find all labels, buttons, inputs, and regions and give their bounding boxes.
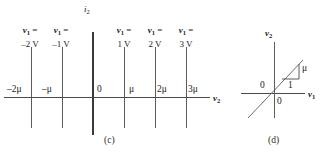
curve-label-1-value: –1 V — [52, 39, 70, 49]
panel-c-xtick-0: –2μ — [7, 84, 22, 94]
panel-c-xtick-1: –μ — [42, 84, 52, 94]
panel-c-horizontal-axis — [4, 97, 210, 98]
panel-d-x-axis-subscript: 1 — [312, 93, 315, 100]
panel-c-x-axis-subscript: 2 — [217, 97, 220, 104]
panel-c-caption: (c) — [104, 135, 115, 145]
panel-d-y-axis-label: v2 — [265, 28, 272, 41]
characteristic-line-v1-plus2 — [155, 47, 156, 128]
characteristic-line-v1-plus3 — [186, 47, 187, 128]
panel-d-horizontal-axis — [241, 93, 305, 94]
panel-c-vertical-axis — [92, 32, 94, 135]
panel-c-y-axis-label: i2 — [84, 4, 90, 17]
panel-d-vertical-axis — [274, 42, 275, 118]
panel-d-x-axis-label: v1 — [308, 89, 315, 102]
panel-d-y-axis-subscript: 2 — [269, 32, 272, 39]
panel-d-caption: (d) — [268, 135, 279, 145]
curve-label-1: v1 = –1 V — [41, 25, 81, 49]
transfer-characteristic-line — [248, 60, 303, 118]
panel-d-origin-label-upper: 0 — [260, 80, 265, 90]
characteristic-line-v1-minus1 — [62, 47, 63, 128]
panel-d-origin-label-lower: 0 — [277, 96, 282, 106]
curve-label-4: v1 = 3 V — [166, 25, 206, 49]
curve-label-4-eq: = — [186, 25, 193, 35]
panel-c-xtick-2: 0 — [97, 84, 102, 94]
curve-label-2-eq: = — [124, 25, 131, 35]
characteristic-line-v1-minus2 — [31, 47, 32, 128]
curve-label-1-eq: = — [61, 25, 68, 35]
curve-label-0-value: –2 V — [21, 39, 39, 49]
curve-label-0-eq: = — [30, 25, 37, 35]
panel-d-slope-rise-label: μ — [302, 63, 307, 73]
curve-label-3-eq: = — [155, 25, 162, 35]
panel-c-xtick-3: μ — [129, 84, 134, 94]
panel-c-xtick-4: 2μ — [157, 84, 167, 94]
panel-d-overlay — [0, 0, 328, 152]
panel-c-x-axis-label: v2 — [213, 93, 220, 106]
panel-c-xtick-5: 3μ — [188, 84, 198, 94]
panel-d-slope-run-label: 1 — [288, 80, 293, 90]
panel-c-y-axis-subscript: 2 — [87, 8, 90, 15]
characteristic-line-v1-plus1 — [124, 47, 125, 128]
figure-container: v1 = –2 V v1 = –1 V v1 = 1 V v1 = 2 V v1… — [0, 0, 328, 152]
